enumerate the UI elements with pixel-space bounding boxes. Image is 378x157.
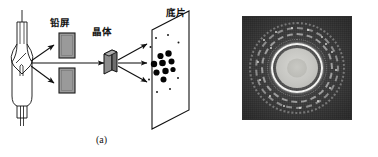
diffraction-spot-minor <box>177 77 179 79</box>
panel-a-schematic: 铅屏 晶体 底片 (a) <box>0 0 200 157</box>
x-ray-tube <box>11 10 33 126</box>
label-lead-screen: 铅屏 <box>50 18 71 28</box>
panel-b-photograph: (b) <box>200 0 378 157</box>
diffraction-spot <box>153 69 159 75</box>
ring-speckle <box>270 47 272 49</box>
label-film: 底片 <box>166 8 187 18</box>
ring-speckle <box>259 79 261 81</box>
ring-speckle <box>325 43 327 45</box>
central-disc-core <box>287 59 307 78</box>
diffraction-photograph <box>242 16 352 120</box>
caption-panel-a: (a) <box>96 134 107 145</box>
diffracted-ray-upper <box>118 44 147 60</box>
diffracted-ray-lower <box>118 66 147 82</box>
ring-speckle <box>331 51 333 53</box>
lead-screen-lower <box>59 68 75 93</box>
diffraction-spot-minor <box>178 42 180 44</box>
diffracted-ray-group <box>118 44 147 82</box>
diffraction-spot-minor <box>156 91 158 93</box>
diffraction-spot <box>165 50 171 56</box>
diffraction-spot <box>161 77 167 83</box>
diffraction-spot <box>151 61 157 67</box>
source-ray-lower <box>31 66 54 83</box>
label-crystal: 晶体 <box>92 27 113 37</box>
diffraction-spot-minor <box>150 46 152 48</box>
ring-speckle <box>321 36 323 38</box>
lead-screen-upper <box>59 33 75 58</box>
ring-speckle <box>335 69 337 71</box>
diffraction-spot-minor <box>148 79 150 81</box>
figure-root: 铅屏 晶体 底片 (a) <box>0 0 378 157</box>
ring-speckle <box>269 95 271 97</box>
source-ray-upper <box>31 45 54 61</box>
ring-speckle <box>263 39 265 41</box>
crystal-block <box>104 50 117 74</box>
diffraction-spot-minor <box>169 88 171 90</box>
diffraction-spot <box>157 53 163 59</box>
diffraction-spot-minor <box>155 37 157 39</box>
diffraction-spot <box>159 60 166 67</box>
diffraction-spot <box>162 68 168 74</box>
diffraction-spot <box>169 59 175 65</box>
diffraction-spot <box>170 67 175 72</box>
ring-speckle <box>257 61 259 63</box>
diffraction-spot-minor <box>167 34 169 36</box>
